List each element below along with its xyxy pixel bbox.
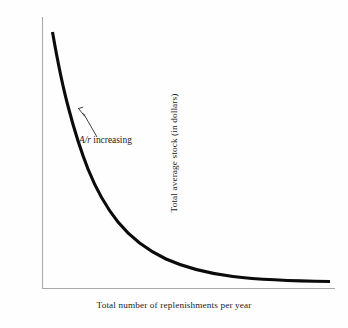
annotation-text: increasing [91, 135, 132, 145]
annotation-symbol: A/r [79, 135, 91, 145]
chart-figure: A/r increasing Total number of replenish… [0, 0, 348, 328]
x-axis-label: Total number of replenishments per year [0, 300, 348, 310]
annotation-arrow-shaft [84, 114, 98, 138]
annotation-arrow-head [79, 107, 85, 116]
total-average-stock-curve [53, 32, 331, 282]
annotation-ar-increasing: A/r increasing [79, 135, 132, 145]
y-axis-label: Total average stock (in dollars) [169, 94, 179, 213]
